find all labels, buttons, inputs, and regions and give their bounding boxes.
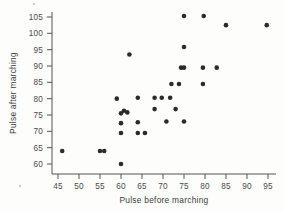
data-point xyxy=(127,52,132,57)
scan-speck xyxy=(19,185,21,187)
axes-group xyxy=(52,12,276,174)
data-point xyxy=(119,131,124,136)
y-tick-label: 60 xyxy=(33,160,43,169)
data-point xyxy=(182,65,187,70)
y-tick-label: 65 xyxy=(33,144,43,153)
x-tick-label: 50 xyxy=(74,182,84,191)
data-point xyxy=(264,23,269,28)
data-point xyxy=(119,121,124,126)
data-point xyxy=(152,95,157,100)
y-tick-label: 90 xyxy=(33,62,43,71)
x-tick-label: 95 xyxy=(263,182,273,191)
data-point xyxy=(136,131,141,136)
data-point xyxy=(214,65,219,70)
data-point xyxy=(182,14,187,19)
data-point xyxy=(98,149,103,154)
y-tick-label: 85 xyxy=(33,78,43,87)
y-tick-label: 75 xyxy=(33,111,43,120)
y-tick-label: 100 xyxy=(29,29,44,38)
data-point xyxy=(173,107,178,112)
y-axis-title: Pulse after marching xyxy=(8,52,18,134)
data-point xyxy=(136,120,141,125)
data-point xyxy=(143,131,148,136)
scan-speck xyxy=(33,3,35,5)
data-point xyxy=(224,23,229,28)
data-point xyxy=(102,149,107,154)
plot-canvas: 4550556065707580859095 60657075808590951… xyxy=(0,0,284,212)
data-point xyxy=(201,65,206,70)
x-tick-label: 85 xyxy=(221,182,231,191)
y-axis-ticks: 6065707580859095100105 xyxy=(29,13,52,169)
y-tick-label: 95 xyxy=(33,46,43,55)
data-point xyxy=(60,149,65,154)
data-point xyxy=(115,96,120,101)
x-tick-label: 45 xyxy=(53,182,63,191)
data-point xyxy=(177,82,182,87)
x-tick-label: 75 xyxy=(179,182,189,191)
data-points-layer xyxy=(60,14,269,167)
data-point xyxy=(164,119,169,124)
x-tick-label: 80 xyxy=(200,182,210,191)
x-tick-label: 60 xyxy=(116,182,126,191)
scatter-plot-figure: 4550556065707580859095 60657075808590951… xyxy=(0,0,284,212)
x-tick-label: 65 xyxy=(137,182,147,191)
x-tick-label: 55 xyxy=(95,182,105,191)
data-point xyxy=(125,110,130,115)
x-tick-label: 90 xyxy=(242,182,252,191)
data-point xyxy=(182,45,187,50)
data-point xyxy=(201,82,206,87)
data-point xyxy=(168,95,173,100)
y-tick-label: 80 xyxy=(33,95,43,104)
data-point xyxy=(159,95,164,100)
data-point xyxy=(201,14,206,19)
data-point xyxy=(169,82,174,87)
data-point xyxy=(152,107,157,112)
y-tick-label: 70 xyxy=(33,127,43,136)
data-point xyxy=(119,162,124,167)
x-axis-title: Pulse before marching xyxy=(119,195,208,205)
y-tick-label: 105 xyxy=(29,13,44,22)
x-axis-ticks: 4550556065707580859095 xyxy=(53,174,273,191)
data-point xyxy=(182,119,187,124)
x-tick-label: 70 xyxy=(158,182,168,191)
data-point xyxy=(136,95,141,100)
